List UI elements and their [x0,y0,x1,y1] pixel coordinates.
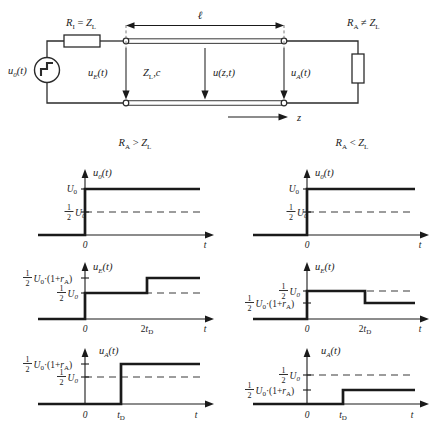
plot-uA-left: uA(t) 1 2 U0·(1+rA) 1 2 U0 0 tD t [23,345,214,422]
plot-u0-left: u0(t) U0 1 2 U0 0 t [38,167,214,250]
svg-text:1: 1 [26,269,30,278]
plot-u0-right-xlabel: t [419,240,422,250]
plot-uE-left-ytick-halfU0: 1 2 U0 [57,284,78,304]
svg-text:2: 2 [60,378,64,387]
plot-uE-right: uE(t) 1 2 U0 1 2 U0·(1+rA) 0 2tD t [245,261,429,336]
plot-u0-left-ytick-halfU0: 1 2 U0 [65,203,86,223]
plot-u0-right: u0(t) U0 1 2 U0 0 t [253,167,429,250]
step-source-symbol [35,58,60,83]
plot-uA-left-ylabel: uA(t) [99,345,119,359]
transmission-line-top [123,38,287,44]
plot-u0-left-ytick-U0: U0 [67,184,78,196]
load-resistor-label: RA ≠ ZL [346,17,380,31]
plot-uE-right-xtick-0: 0 [305,324,310,334]
svg-text:2: 2 [248,391,252,400]
series-resistor-RI [64,35,100,47]
figure-root: u0(t) RI = ZL RA ≠ ZL ℓ [0,0,437,429]
plot-uE-right-xlabel: t [419,324,422,334]
svg-text:1: 1 [282,282,286,291]
svg-text:2: 2 [26,279,30,288]
transmission-line-bottom [123,100,287,106]
plot-uE-right-ytick-halfU0rA: 1 2 U0·(1+rA) [245,294,294,314]
svg-text:1: 1 [282,366,286,375]
series-resistor-label: RI = ZL [65,17,96,31]
svg-text:2: 2 [289,213,293,222]
column-header-right: RA < ZL [335,137,369,151]
line-length-label: ℓ [198,9,203,21]
z-axis-label: z [296,112,301,123]
svg-text:U0: U0 [290,287,301,299]
plot-uE-left-ylabel: uE(t) [93,261,113,275]
input-voltage-label: uE(t) [88,67,108,81]
plot-u0-left-ylabel: u0(t) [93,167,112,181]
plot-uA-left-xlabel: t [195,410,198,420]
line-voltage-label: u(z,t) [213,67,235,79]
voltage-arrow-uA [280,48,287,100]
svg-text:U0: U0 [68,289,79,301]
svg-text:1: 1 [289,203,293,212]
svg-text:U0: U0 [290,371,301,383]
plot-uA-right-xtick-0: 0 [305,410,310,420]
plot-uA-right-ytick-halfU0rA: 1 2 U0·(1+rA) [245,381,294,401]
plot-uE-right-xtick-2tD: 2tD [359,324,371,336]
plot-uE-left-xlabel: t [204,324,207,334]
svg-text:2: 2 [248,304,252,313]
svg-text:U0·(1+rA): U0·(1+rA) [34,274,73,286]
plot-uA-left-xtick-0: 0 [83,410,88,420]
plot-uA-left-xtick-tD: tD [117,410,125,422]
plot-u0-right-ytick-halfU0: 1 2 U0 [287,203,308,223]
svg-text:2: 2 [67,213,71,222]
plot-uA-left-ytick-halfU0rA: 1 2 U0·(1+rA) [23,355,72,375]
plot-uA-right-ylabel: uA(t) [321,345,341,359]
svg-text:2: 2 [282,376,286,385]
svg-text:1: 1 [67,203,71,212]
voltage-arrow-uzt [201,48,208,100]
plot-u0-left-xlabel: t [204,240,207,250]
plot-u0-right-xtick-0: 0 [305,240,310,250]
source-label: u0(t) [8,65,27,79]
figure-svg: u0(t) RI = ZL RA ≠ ZL ℓ [0,0,437,429]
plot-u0-left-xtick-0: 0 [83,240,88,250]
plot-uE-right-ylabel: uE(t) [315,261,335,275]
plot-uA-right: uA(t) 1 2 U0 1 2 U0·(1+rA) 0 tD t [245,345,429,422]
plot-uE-left-xtick-0: 0 [83,324,88,334]
column-header-left: RA > ZL [118,137,152,151]
line-parameters-label: ZL,c [143,67,161,81]
svg-text:U0·(1+rA): U0·(1+rA) [256,386,295,398]
svg-text:1: 1 [60,368,64,377]
svg-text:1: 1 [248,381,252,390]
plot-uA-right-xtick-tD: tD [339,410,347,422]
plot-uE-left-xtick-2tD: 2tD [141,324,153,336]
z-axis-arrow: z [228,112,301,123]
plot-uE-left: uE(t) 1 2 U0·(1+rA) 1 2 U0 0 2tD t [23,261,214,336]
plot-uE-left-ytick-halfU0rA: 1 2 U0·(1+rA) [23,269,72,289]
voltage-arrow-uE [122,48,129,100]
load-resistor-RA [352,54,364,83]
svg-text:U0·(1+rA): U0·(1+rA) [34,360,73,372]
svg-text:1: 1 [26,355,30,364]
svg-text:1: 1 [60,284,64,293]
svg-text:U0: U0 [68,373,79,385]
svg-text:2: 2 [26,365,30,374]
output-voltage-label: uA(t) [291,67,311,81]
plot-u0-right-ylabel: u0(t) [315,167,334,181]
svg-text:U0·(1+rA): U0·(1+rA) [256,299,295,311]
plot-uA-right-xlabel: t [411,410,414,420]
plot-uA-right-ytick-halfU0: 1 2 U0 [279,366,300,386]
svg-text:1: 1 [248,294,252,303]
svg-text:2: 2 [60,294,64,303]
circuit-diagram: u0(t) RI = ZL RA ≠ ZL ℓ [8,9,380,123]
plot-u0-right-ytick-U0: U0 [289,184,300,196]
